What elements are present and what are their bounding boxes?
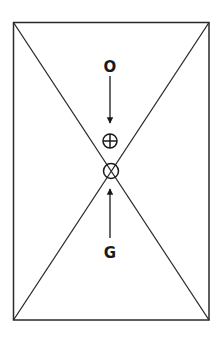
label-g: G — [104, 246, 116, 261]
diagram-canvas — [0, 0, 222, 338]
circle-plus-icon — [103, 134, 117, 148]
label-o: O — [104, 60, 117, 75]
